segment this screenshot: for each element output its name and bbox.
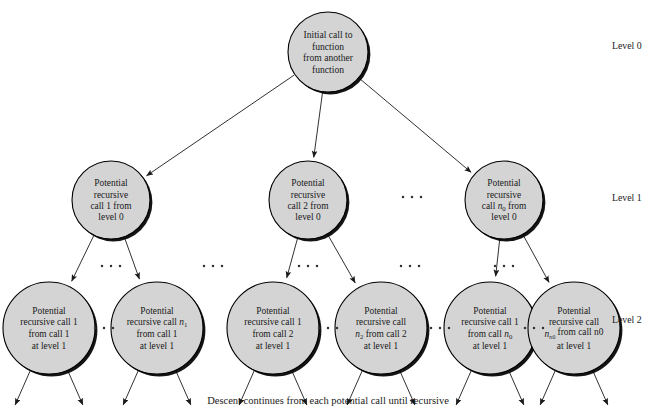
node-level2-3: Potentialrecursive call 1from call 2at l… — [227, 282, 321, 376]
node-level1-2: Potentialrecursivecall 2 fromlevel 0 — [269, 161, 349, 241]
node-level2-1-line-1: Potential — [32, 306, 66, 316]
edge-level1-3-to-level2-5 — [496, 240, 500, 277]
node-level1-3-line-2: recursive — [487, 190, 521, 200]
ellipsis-between-level2-groups-2 — [400, 265, 421, 268]
node-root-line-2: function — [312, 41, 344, 52]
diagram-canvas: Initial call tofunctionfrom anotherfunct… — [0, 0, 657, 410]
node-root-line-1: Initial call to — [303, 29, 352, 40]
node-level2-3-line-2: recursive call 1 — [244, 317, 302, 327]
node-level1-1-line-1: Potential — [94, 178, 128, 188]
node-level2-4-line-4: at level 1 — [364, 341, 399, 351]
node-level1-3-line-4: level 0 — [491, 212, 517, 222]
node-level2-6-line-4: at level 1 — [557, 341, 592, 351]
ellipsis-between-level1-nodes — [402, 196, 423, 199]
node-level2-4-circle — [335, 282, 427, 374]
ellipsis-above-level2-group-1 — [101, 265, 122, 268]
node-level1-1: Potentialrecursivecall 1 fromlevel 0 — [72, 161, 152, 241]
edge-level2-2-descend-1 — [123, 371, 138, 405]
node-group: Initial call tofunctionfrom anotherfunct… — [3, 12, 622, 376]
level-label-2: Level 2 — [612, 314, 642, 325]
node-level1-3: Potentialrecursivecall n0​ fromlevel 0 — [465, 161, 545, 241]
node-level2-3-circle — [227, 282, 319, 374]
edge-root-to-level1-2 — [314, 93, 323, 158]
edge-root-to-level1-1 — [147, 75, 295, 176]
node-root-line-3: from another — [303, 52, 354, 63]
edge-level2-1-descend-1 — [15, 371, 30, 405]
node-level1-2-line-1: Potential — [291, 178, 325, 188]
node-level2-2-line-3: from call 1 — [136, 329, 177, 339]
node-root: Initial call tofunctionfrom anotherfunct… — [288, 12, 370, 94]
edge-level1-2-to-level2-3 — [287, 239, 298, 278]
node-root-line-4: function — [312, 64, 344, 75]
node-level1-2-line-2: recursive — [291, 190, 325, 200]
node-level2-4: Potentialrecursive calln2​ from call 2at… — [335, 282, 429, 376]
node-level2-2-line-4: at level 1 — [140, 341, 175, 351]
node-level1-1-line-2: recursive — [94, 190, 128, 200]
level-label-1: Level 1 — [612, 192, 642, 203]
node-level1-2-line-4: level 0 — [295, 212, 321, 222]
edge-level2-5-descend-1 — [456, 371, 471, 405]
node-level2-2: Potentialrecursive call n1​from call 1at… — [111, 282, 205, 376]
node-level2-5-circle — [444, 282, 536, 374]
node-level2-4-line-1: Potential — [364, 306, 398, 316]
node-level1-1-line-4: level 0 — [98, 212, 124, 222]
node-level1-2-line-3: call 2 from — [287, 201, 329, 211]
node-level2-1-line-3: from call 1 — [28, 329, 69, 339]
node-level2-5: Potentialrecursive call 1from call n0​at… — [444, 282, 538, 376]
node-level2-2-circle — [111, 282, 203, 374]
node-level2-3-line-4: at level 1 — [256, 341, 291, 351]
node-level2-1-line-2: recursive call 1 — [20, 317, 78, 327]
recursion-tree-figure: Initial call tofunctionfrom anotherfunct… — [0, 0, 657, 410]
edge-level2-1-descend-2 — [68, 371, 83, 405]
node-level2-1-circle — [3, 282, 95, 374]
node-level2-4-line-2: recursive call — [356, 317, 407, 327]
node-level2-3-line-1: Potential — [256, 306, 290, 316]
node-level2-5-line-2: recursive call 1 — [461, 317, 519, 327]
node-level2-5-line-3: from call n0​ — [468, 329, 513, 340]
edge-level2-6-descend-2 — [593, 371, 608, 405]
edge-level1-3-to-level2-6 — [523, 235, 549, 282]
node-level2-3-line-3: from call 2 — [252, 329, 293, 339]
node-level2-6-line-1: Potential — [557, 306, 591, 316]
node-level2-1: Potentialrecursive call 1from call 1at l… — [3, 282, 97, 376]
node-level2-5-line-1: Potential — [473, 306, 507, 316]
node-level2-1-line-4: at level 1 — [32, 341, 67, 351]
edge-root-to-level1-3 — [359, 78, 471, 172]
edge-level1-1-to-level2-2 — [125, 238, 140, 279]
edge-level2-5-descend-2 — [509, 371, 524, 405]
node-level2-4-line-3: n2​ from call 2 — [355, 329, 407, 340]
ellipsis-between-level2-groups-1 — [203, 265, 224, 268]
level-label-0: Level 0 — [612, 40, 642, 51]
level-label-group: Level 0Level 1Level 2 — [612, 40, 642, 325]
edge-level1-1-to-level2-1 — [72, 236, 94, 281]
node-level2-6: Potentialrecursive callnn​0​ from call n… — [528, 282, 622, 376]
edge-level2-2-descend-2 — [176, 371, 191, 405]
node-level1-3-circle — [465, 161, 543, 239]
figure-caption: Descent continues from each potential ca… — [207, 395, 449, 406]
node-level1-3-line-1: Potential — [487, 178, 521, 188]
node-level2-6-line-2: recursive call — [549, 317, 600, 327]
edge-level1-2-to-level2-4 — [328, 235, 355, 283]
ellipsis-above-level2-group-2 — [298, 265, 319, 268]
node-level1-1-line-3: call 1 from — [90, 201, 132, 211]
edge-level2-6-descend-1 — [540, 371, 555, 405]
node-level2-2-line-1: Potential — [140, 306, 174, 316]
node-level2-5-line-4: at level 1 — [473, 341, 508, 351]
node-level2-2-line-2: recursive call n1​ — [127, 317, 188, 328]
